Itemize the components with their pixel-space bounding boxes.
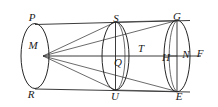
point-label-h: H (162, 52, 170, 63)
geometry-figure: P M R S T Q U G H N F E (0, 0, 218, 107)
point-label-n: N (182, 49, 189, 60)
point-label-e: E (176, 91, 183, 102)
ray-m-to-s (43, 22, 116, 56)
point-label-m: M (28, 40, 37, 51)
point-label-q: Q (114, 57, 122, 68)
point-label-p: P (29, 12, 36, 23)
ray-m-to-g (43, 21, 177, 57)
ray-m-to-e (43, 56, 177, 92)
point-label-r: R (28, 89, 35, 100)
point-label-s: S (113, 13, 119, 24)
point-label-f: F (197, 48, 204, 59)
point-label-u: U (111, 91, 119, 102)
point-label-g: G (173, 11, 181, 22)
point-label-t: T (138, 43, 144, 54)
ray-m-to-u (43, 56, 116, 90)
